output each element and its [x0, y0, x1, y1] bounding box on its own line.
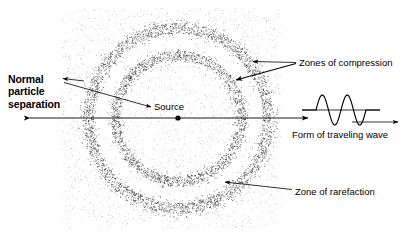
traveling-wave-plot	[302, 95, 398, 125]
source-point	[175, 115, 180, 120]
label-normal-line2: particle	[8, 85, 60, 97]
label-source: Source	[154, 101, 184, 112]
label-zones-of-compression: Zones of compression	[299, 57, 392, 68]
figure-canvas: Normal particle separation Source Zones …	[0, 0, 406, 239]
label-normal-line3: separation	[8, 98, 60, 110]
label-form-of-traveling-wave: Form of traveling wave	[292, 129, 388, 140]
label-normal-particle-separation: Normal particle separation	[8, 73, 60, 110]
label-normal-line1: Normal	[8, 73, 60, 85]
label-zone-of-rarefaction: Zone of rarefaction	[295, 186, 375, 197]
rarefaction-leader	[225, 182, 292, 190]
wave-diagram-svg	[0, 0, 406, 239]
